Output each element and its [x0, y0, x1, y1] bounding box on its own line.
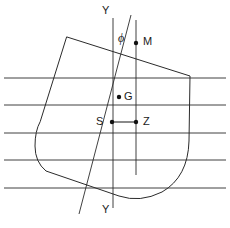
label-heel-angle-phi: ϕ: [118, 32, 124, 44]
point-marker-s: [110, 120, 114, 124]
point-marker-g: [117, 95, 121, 99]
label-centre-of-buoyancy-s: S: [96, 116, 103, 127]
label-righting-arm-point-z: Z: [143, 116, 150, 127]
diagram-canvas: [0, 0, 230, 228]
point-marker-z: [134, 120, 138, 124]
ship-hull-section: [35, 37, 190, 199]
label-centre-of-gravity-g: G: [124, 91, 133, 102]
point-marker-m: [134, 41, 138, 45]
waterline-group: [4, 78, 226, 188]
label-y-bottom: Y: [102, 204, 109, 215]
label-y-top: Y: [102, 5, 109, 16]
label-metacentre-m: M: [143, 36, 152, 47]
ship-stability-figure: Y Y ϕ M G S Z: [0, 0, 230, 228]
